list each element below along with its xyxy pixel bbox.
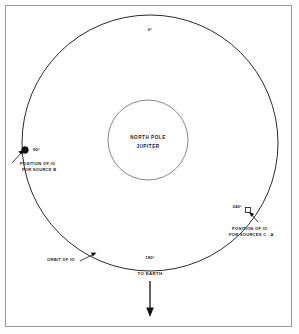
io-position-marker-source-b xyxy=(22,147,29,154)
angle-label-180: 180° xyxy=(145,255,155,260)
source-b-label-line2: FOR SOURCE B xyxy=(22,167,56,172)
angle-label-0: 0° xyxy=(148,27,153,32)
io-position-marker-sources-c-a xyxy=(246,208,251,213)
to-earth-arrow xyxy=(146,281,154,317)
figure-root: NORTH POLE JUPITER 0° 180° 90° POSITION … xyxy=(0,0,299,334)
sources-c-a-label-line1: POSITION OF IO xyxy=(232,226,268,231)
angle-label-240: 240° xyxy=(233,204,243,209)
to-earth-label: TO EARTH xyxy=(138,271,163,276)
jupiter-label: JUPITER xyxy=(136,144,159,149)
io-orbit-diagram: NORTH POLE JUPITER 0° 180° 90° POSITION … xyxy=(0,0,299,334)
orbit-of-io-label: ORBIT OF IO xyxy=(47,257,75,262)
source-b-label-line1: POSITION OF IO xyxy=(20,161,56,166)
sources-c-a-label-line2: FOR SOURCES C - A xyxy=(229,232,274,237)
angle-label-90: 90° xyxy=(33,147,40,152)
north-pole-label: NORTH POLE xyxy=(130,135,166,140)
jupiter-circle xyxy=(108,100,188,180)
orbit-of-io-leader-arrow xyxy=(80,253,97,261)
